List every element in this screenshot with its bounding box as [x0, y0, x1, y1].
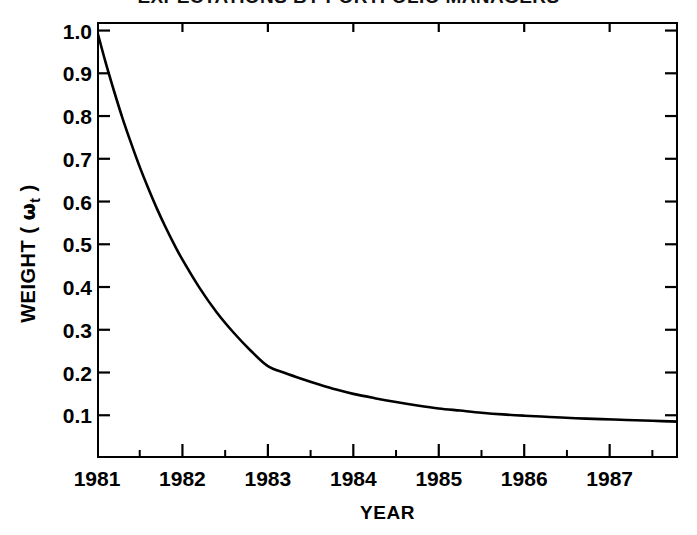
x-tick-label: 1983 [223, 468, 313, 489]
y-tick-label: 0.6 [28, 191, 92, 212]
x-tick-label: 1982 [137, 468, 227, 489]
x-tick-label: 1986 [479, 468, 569, 489]
x-tick-label: 1981 [52, 468, 142, 489]
chart-figure: EXPECTATIONS BY PORTFOLIO MANAGERS WEIGH… [0, 0, 697, 535]
x-tick-label: 1985 [394, 468, 484, 489]
chart-title: EXPECTATIONS BY PORTFOLIO MANAGERS [0, 0, 697, 8]
x-axis-tick-labels: 1981198219831984198519861987 [0, 468, 697, 498]
plot-area [97, 22, 678, 458]
y-tick-label: 1.0 [28, 20, 92, 41]
y-tick-label: 0.5 [28, 234, 92, 255]
y-tick-label: 0.9 [28, 63, 92, 84]
x-tick-label: 1987 [565, 468, 655, 489]
y-tick-label: 0.7 [28, 148, 92, 169]
x-tick-label: 1984 [308, 468, 398, 489]
y-tick-label: 0.1 [28, 405, 92, 426]
data-line-weight [97, 31, 678, 422]
y-tick-label: 0.3 [28, 319, 92, 340]
y-tick-label: 0.8 [28, 106, 92, 127]
y-tick-label: 0.2 [28, 362, 92, 383]
axis-ticks [97, 22, 678, 458]
y-axis-tick-labels: 1.00.90.80.70.60.50.40.30.20.1 [28, 0, 92, 535]
y-tick-label: 0.4 [28, 277, 92, 298]
x-axis-title: YEAR [97, 502, 678, 524]
